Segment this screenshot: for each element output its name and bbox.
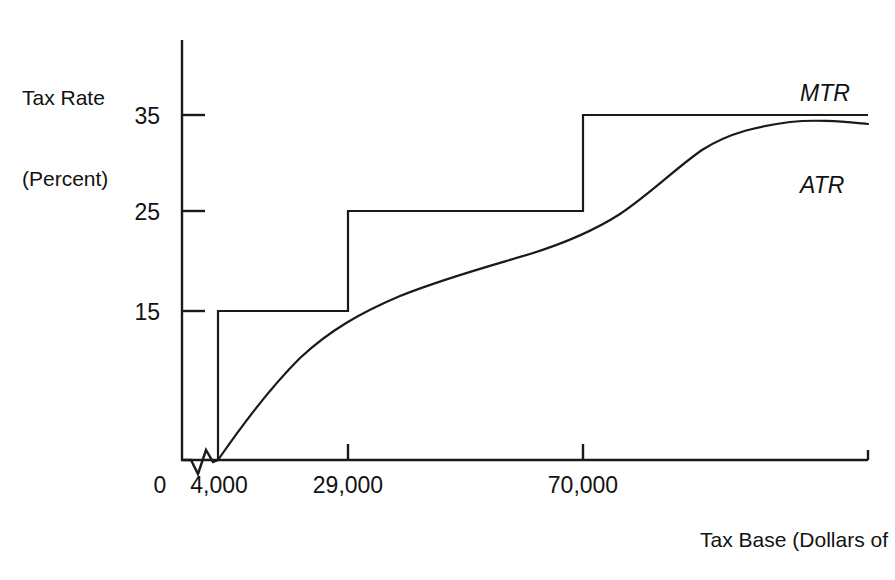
x-axis-title: Tax Base (Dollars of Taxable Income per … [560,472,888,580]
series-label-atr: ATR [800,172,844,199]
axis-break-zigzag [182,450,218,474]
tax-rate-chart: Tax Rate (Percent) 35 25 15 0 4,000 29,0… [0,0,895,580]
y-tick-label-25: 25 [100,199,160,226]
y-tick-label-15: 15 [100,299,160,326]
x-axis-title-line1: Tax Base (Dollars of [560,526,888,553]
y-axis-title-line2: (Percent) [22,165,108,192]
y-tick-label-35: 35 [100,103,160,130]
x-tick-label-0: 0 [145,472,175,499]
series-mtr-line [218,115,868,460]
x-tick-label-29000: 29,000 [283,472,413,499]
x-tick-label-4000: 4,000 [174,472,264,499]
y-axis-title-line1: Tax Rate [22,84,108,111]
series-atr-curve [218,121,868,460]
series-label-mtr: MTR [800,80,850,107]
y-axis-title: Tax Rate (Percent) [22,30,108,246]
